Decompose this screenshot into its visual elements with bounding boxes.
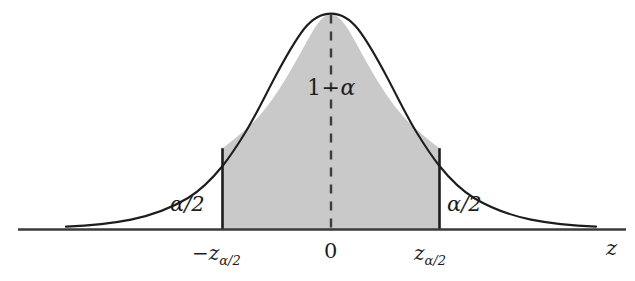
tick-right-subscript: α/2: [425, 253, 446, 268]
negative-sign: −: [192, 241, 209, 265]
normal-distribution-figure: α/2 1−α α/2 −zα/2 0 zα/2 z: [0, 0, 635, 281]
center-area-one: 1: [307, 75, 322, 100]
tick-zero-text: 0: [324, 239, 337, 263]
tick-right-variable: z: [414, 241, 425, 265]
center-area-label: 1−α: [307, 77, 356, 99]
tick-left-variable: z: [209, 241, 220, 265]
normal-curve-plot: [0, 0, 635, 281]
tick-left-subscript: α/2: [219, 253, 240, 268]
right-tail-area-text: α/2: [447, 192, 482, 216]
left-tail-area-text: α/2: [170, 192, 205, 216]
axis-tick-label-right: zα/2: [414, 243, 446, 267]
axis-tick-label-zero: 0: [324, 241, 337, 262]
axis-tick-label-left: −zα/2: [192, 243, 241, 267]
center-area-alpha: α: [340, 75, 355, 100]
center-area-minus: −: [322, 75, 341, 100]
z-axis-name-label: z: [606, 238, 617, 259]
z-axis-name-text: z: [606, 236, 617, 260]
right-tail-area-label: α/2: [447, 194, 482, 215]
left-tail-area-label: α/2: [170, 194, 205, 215]
